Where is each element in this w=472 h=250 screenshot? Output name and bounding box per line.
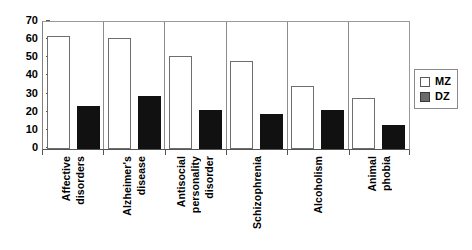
bar-dz xyxy=(382,125,405,149)
dark-square-icon xyxy=(420,92,430,102)
y-axis: 010203040506070 xyxy=(8,14,38,150)
bar-dz xyxy=(321,110,344,149)
x-axis-category-label-line: disorder xyxy=(203,156,215,199)
x-tick-mark xyxy=(165,150,166,155)
x-axis-category-label: Alcoholism xyxy=(311,156,325,214)
x-axis-category-label-line: personality xyxy=(189,156,201,213)
bar-group xyxy=(104,22,165,149)
bar-dz xyxy=(138,96,161,149)
y-tick-label: 70 xyxy=(8,15,38,26)
legend-item-label: DZ xyxy=(435,91,450,102)
x-axis-category-label-line: Alcoholism xyxy=(312,156,324,214)
y-tick-label: 40 xyxy=(8,69,38,80)
x-label-slot: Animalphobia xyxy=(349,156,410,248)
x-axis-category-label: Animalphobia xyxy=(365,156,393,192)
legend-item-dz[interactable]: DZ xyxy=(420,89,451,104)
bar-mz xyxy=(352,98,375,149)
white-square-icon xyxy=(420,77,430,87)
x-axis-category-label-line: phobia xyxy=(380,156,392,191)
x-axis-category-label-line: disorders xyxy=(74,156,86,205)
x-axis-ticks xyxy=(42,150,410,155)
x-axis-category-label-line: Antisocial xyxy=(175,156,187,207)
x-label-slot: Alcoholism xyxy=(287,156,348,248)
x-axis-category-label: Antisocialpersonalitydisorder xyxy=(174,156,216,213)
x-label-slot: Schizophrenia xyxy=(226,156,287,248)
x-tick-mark xyxy=(409,150,410,155)
x-axis-category-label: Alzheimer'sdisease xyxy=(120,156,148,216)
x-label-slot: Antisocialpersonalitydisorder xyxy=(165,156,226,248)
y-tick-label: 60 xyxy=(8,33,38,44)
legend: MZDZ xyxy=(414,69,458,109)
y-tick-label: 20 xyxy=(8,105,38,116)
bar-groups xyxy=(43,22,409,149)
x-tick-mark xyxy=(42,150,43,155)
bar-group xyxy=(349,22,409,149)
bar-mz xyxy=(291,86,314,149)
bar-group xyxy=(165,22,226,149)
y-tick-label: 30 xyxy=(8,87,38,98)
x-tick-mark xyxy=(226,150,227,155)
bar-mz xyxy=(230,61,253,149)
bar-group xyxy=(227,22,288,149)
y-tick-label: 10 xyxy=(8,123,38,134)
legend-item-label: MZ xyxy=(435,76,451,87)
bar-group xyxy=(288,22,349,149)
x-tick-mark xyxy=(349,150,350,155)
x-axis-labels: AffectivedisordersAlzheimer'sdiseaseAnti… xyxy=(42,156,410,248)
x-label-slot: Affectivedisorders xyxy=(42,156,103,248)
bar-mz xyxy=(47,36,70,149)
legend-item-mz[interactable]: MZ xyxy=(420,74,451,89)
x-axis-category-label: Affectivedisorders xyxy=(59,156,87,205)
bar-dz xyxy=(260,114,283,149)
bar-dz xyxy=(199,110,222,149)
x-axis-category-label-line: Animal xyxy=(366,156,378,192)
bar-mz xyxy=(169,56,192,149)
x-axis-category-label: Schizophrenia xyxy=(250,156,264,229)
x-tick-mark xyxy=(103,150,104,155)
y-tick-label: 50 xyxy=(8,51,38,62)
bar-group xyxy=(43,22,104,149)
y-tick-label: 0 xyxy=(8,142,38,153)
x-tick-mark xyxy=(287,150,288,155)
x-axis-category-label-line: disease xyxy=(135,156,147,195)
bar-dz xyxy=(77,106,100,149)
twin-concordance-bar-chart: 010203040506070 AffectivedisordersAlzhei… xyxy=(0,0,472,250)
x-axis-category-label-line: Alzheimer's xyxy=(121,156,133,216)
x-axis-category-label-line: Affective xyxy=(60,156,72,201)
x-axis-category-label-line: Schizophrenia xyxy=(251,156,263,229)
bar-mz xyxy=(108,38,131,149)
x-label-slot: Alzheimer'sdisease xyxy=(103,156,164,248)
plot-area xyxy=(42,21,410,150)
